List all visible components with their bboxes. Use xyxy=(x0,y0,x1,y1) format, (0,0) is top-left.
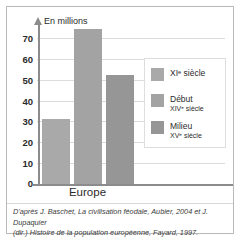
legend: XIᵉ siècle Début XIVᵉ siècle Milieu XVᵉ … xyxy=(144,58,226,148)
plot-area: En millions 70 60 50 40 30 20 10 0 Europ… xyxy=(7,7,233,199)
y-tick-label-60: 60 xyxy=(7,55,33,65)
legend-item-11e-siecle[interactable]: XIᵉ siècle xyxy=(151,68,205,81)
caption-divider xyxy=(7,203,233,204)
y-tick-label-70: 70 xyxy=(7,34,33,44)
y-tick-label-0: 0 xyxy=(7,179,33,189)
legend-swatch-11e-siecle xyxy=(151,68,164,81)
legend-item-milieu-15e-siecle[interactable]: Milieu XVᵉ siècle xyxy=(151,121,202,140)
y-tick-label-30: 30 xyxy=(7,117,33,127)
legend-label-debut-14e-siecle-line2: XIVᵉ siècle xyxy=(170,105,204,114)
legend-label-milieu-15e-siecle-line2: XVᵉ siècle xyxy=(170,132,202,141)
legend-label-11e-siecle: XIᵉ siècle xyxy=(170,68,205,79)
legend-item-debut-14e-siecle[interactable]: Début XIVᵉ siècle xyxy=(151,94,204,113)
y-tick-label-10: 10 xyxy=(7,159,33,169)
bar-milieu-15e-siecle[interactable] xyxy=(106,75,134,184)
figure-frame: En millions 70 60 50 40 30 20 10 0 Europ… xyxy=(6,6,234,234)
source-caption-line-2: (dir.) Histoire de la population europée… xyxy=(13,228,228,239)
legend-label-milieu-15e-siecle-line1: Milieu xyxy=(170,121,202,132)
legend-label-milieu-15e-siecle: Milieu XVᵉ siècle xyxy=(170,121,202,140)
legend-label-11e-siecle-line1: XIᵉ siècle xyxy=(170,68,205,79)
legend-label-debut-14e-siecle: Début XIVᵉ siècle xyxy=(170,94,204,113)
x-category-label-europe: Europe xyxy=(40,187,135,199)
y-tick-label-20: 20 xyxy=(7,138,33,148)
legend-swatch-milieu-15e-siecle xyxy=(151,121,164,134)
bar-debut-14e-siecle[interactable] xyxy=(74,29,102,184)
source-caption-line-1: D'après J. Baschet, La civilisation féod… xyxy=(13,207,228,228)
legend-swatch-debut-14e-siecle xyxy=(151,94,164,107)
y-tick-label-50: 50 xyxy=(7,76,33,86)
source-caption: D'après J. Baschet, La civilisation féod… xyxy=(13,207,228,239)
x-axis-line xyxy=(33,184,233,186)
legend-label-debut-14e-siecle-line1: Début xyxy=(170,94,204,105)
bar-group-europe xyxy=(40,22,135,184)
bar-11e-siecle[interactable] xyxy=(42,119,70,184)
y-tick-label-40: 40 xyxy=(7,97,33,107)
